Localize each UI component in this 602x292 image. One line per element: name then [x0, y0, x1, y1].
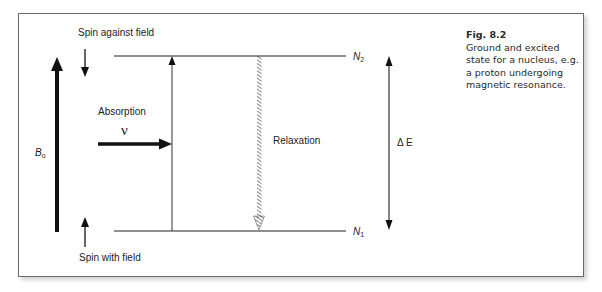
spin-with-field-arrow: [81, 217, 89, 247]
spin-against-field-arrow: [81, 49, 89, 77]
relaxation-arrow: [254, 56, 265, 230]
figure-caption: Fig. 8.2 Ground and excited state for a …: [466, 29, 584, 92]
frequency-symbol: ν: [121, 122, 128, 139]
figure-caption-text: Ground and excited state for a nucleus, …: [466, 42, 579, 91]
field-label: Bo: [35, 147, 46, 159]
spin-against-field-label: Spin against field: [78, 27, 154, 38]
absorption-label: Absorption: [98, 106, 146, 117]
lower-level-label: N1: [353, 226, 364, 238]
photon-arrow: [98, 139, 172, 150]
spin-with-field-label: Spin with field: [79, 252, 141, 263]
energy-gap-arrow: [386, 56, 393, 230]
upper-level-label: N2: [353, 51, 364, 63]
energy-gap-label: Δ E: [397, 137, 413, 148]
figure-number: Fig. 8.2: [466, 29, 584, 42]
relaxation-label: Relaxation: [273, 135, 320, 146]
magnetic-field-arrow: [51, 57, 63, 232]
